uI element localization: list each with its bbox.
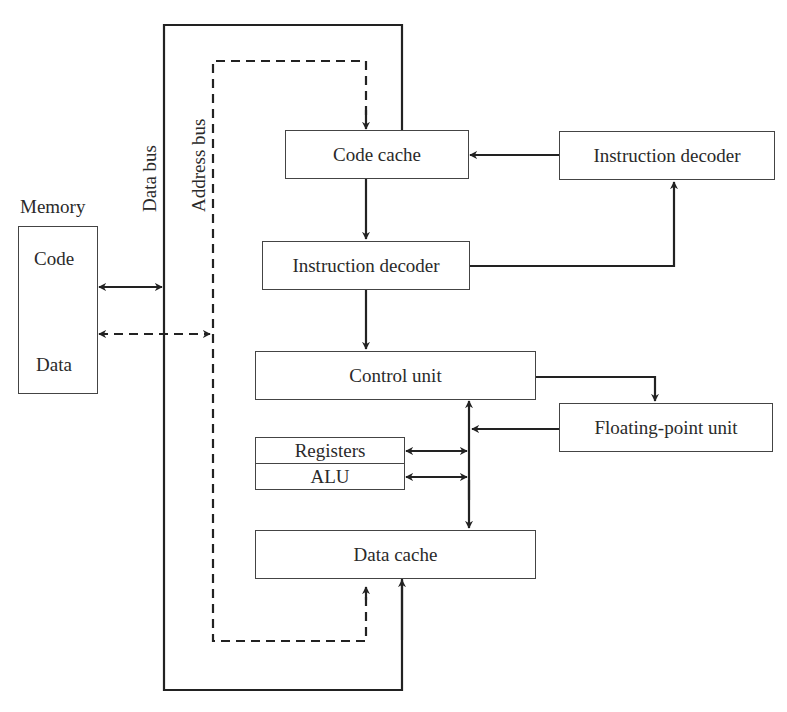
control-unit-block: Control unit: [255, 351, 536, 400]
memory-data-label: Data: [36, 354, 72, 376]
decoder-mid-to-decoder-right-arrow: [469, 182, 674, 266]
memory-code-label: Code: [34, 248, 74, 270]
floating-point-unit-block: Floating-point unit: [559, 403, 773, 452]
memory-block: Code Data: [18, 226, 98, 394]
data-cache-block: Data cache: [255, 530, 536, 579]
data-bus-label: Data bus: [139, 145, 161, 212]
code-cache-block: Code cache: [285, 130, 469, 179]
registers-block: Registers: [255, 437, 405, 464]
alu-block: ALU: [255, 463, 405, 490]
instruction-decoder-mid-block: Instruction decoder: [262, 241, 470, 290]
address-bus-label: Address bus: [188, 119, 210, 212]
memory-title: Memory: [20, 196, 85, 218]
control-unit-to-fpu-arrow: [535, 377, 655, 401]
instruction-decoder-right-block: Instruction decoder: [559, 131, 775, 180]
